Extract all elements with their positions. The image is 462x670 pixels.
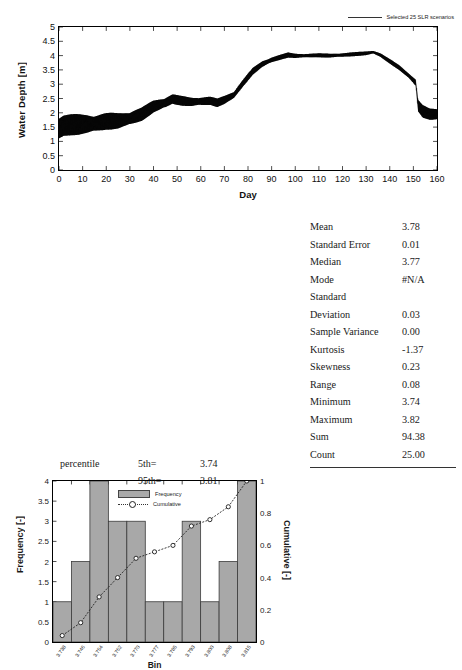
histogram-left-y-tick: 1.5	[38, 577, 49, 586]
statistic-name: Sum	[310, 428, 402, 446]
timeseries-y-tick: 2.5	[42, 94, 55, 104]
statistic-value: 0.00	[402, 323, 456, 341]
histogram-left-y-tick: 0.5	[38, 617, 49, 626]
histogram-bin-tick: 3.754	[92, 644, 104, 658]
statistic-value: 3.78	[402, 218, 456, 236]
timeseries-svg	[59, 27, 437, 170]
histogram-bin-tick: 3.777	[147, 644, 159, 658]
timeseries-x-tick: 130	[359, 174, 374, 184]
statistics-row: Skewness0.23	[310, 358, 456, 376]
statistic-value: 25.00	[402, 446, 456, 464]
histogram-bin-tick: 3.785	[166, 644, 178, 658]
statistic-name: Range	[310, 376, 402, 394]
statistics-row: Range0.08	[310, 376, 456, 394]
histogram-bin-tick: 3.800	[202, 644, 214, 658]
statistics-table: Mean3.78Standard Error0.01Median3.77Mode…	[310, 218, 456, 463]
timeseries-envelope-band	[59, 51, 437, 138]
histogram-left-y-tick: 0	[45, 638, 49, 647]
statistics-row: Count25.00	[310, 446, 456, 464]
timeseries-x-tick: 20	[101, 174, 111, 184]
statistics-row: Standard	[310, 288, 456, 306]
legend-bar-swatch-icon	[118, 490, 150, 498]
timeseries-y-tick: 1.5	[42, 122, 55, 132]
percentile-row: 95th=3.81	[60, 472, 275, 489]
histogram-right-y-tick: 0.8	[260, 509, 271, 518]
statistics-row: Deviation0.03	[310, 306, 456, 324]
statistics-row: Kurtosis-1.37	[310, 341, 456, 359]
statistic-name: Maximum	[310, 411, 402, 429]
timeseries-y-tick: 0	[50, 165, 55, 175]
histogram-left-y-tick: 4	[45, 477, 49, 486]
statistic-name: Skewness	[310, 358, 402, 376]
histogram-x-axis-label: Bin	[52, 660, 257, 670]
statistics-row: Standard Error0.01	[310, 236, 456, 254]
timeseries-x-tick: 160	[429, 174, 444, 184]
timeseries-y-tick: 4.5	[42, 36, 55, 46]
frequency-histogram-chart: Frequency [-] Cumulative [-] 00.511.522.…	[0, 232, 300, 452]
timeseries-y-tick: 0.5	[42, 151, 55, 161]
statistics-row: Mode#N/A	[310, 271, 456, 289]
statistic-name: Sample Variance	[310, 323, 402, 341]
histogram-left-y-tick: 2	[45, 557, 49, 566]
legend-entry-frequency: Frequency	[118, 490, 181, 498]
statistics-row: Maximum3.82	[310, 411, 456, 429]
statistics-row: Mean3.78	[310, 218, 456, 236]
percentile-key: 5th=	[138, 455, 200, 472]
timeseries-y-tick: 1	[50, 136, 55, 146]
timeseries-x-tick: 30	[125, 174, 135, 184]
statistic-value: -1.37	[402, 341, 456, 359]
legend-entry-cumulative: Cumulative	[118, 501, 181, 507]
timeseries-x-tick: 140	[382, 174, 397, 184]
percentile-value: 3.74	[200, 455, 275, 472]
histogram-right-y-tick: 0.4	[260, 573, 271, 582]
histogram-left-y-tick: 2.5	[38, 537, 49, 546]
water-depth-timeseries-chart: Water Depth [m] 00.511.522.533.544.55 01…	[0, 6, 462, 206]
timeseries-y-tick: 4	[50, 51, 55, 61]
timeseries-x-tick: 150	[406, 174, 421, 184]
descriptive-statistics-table: Mean3.78Standard Error0.01Median3.77Mode…	[310, 218, 456, 468]
histogram-bin-tick: 3.793	[184, 644, 196, 658]
timeseries-tick-marks	[59, 27, 437, 170]
statistic-value: 0.08	[402, 376, 456, 394]
percentile-table: percentile5th=3.7495th=3.81	[60, 455, 275, 489]
histogram-right-y-tick: 0.6	[260, 541, 271, 550]
histogram-legend: Frequency Cumulative	[118, 490, 181, 507]
statistic-name: Count	[310, 446, 402, 464]
timeseries-x-tick: 110	[312, 174, 326, 184]
percentile-block: percentile5th=3.7495th=3.81	[60, 455, 275, 489]
statistic-name: Minimum	[310, 393, 402, 411]
histogram-bin-tick: 3.808	[221, 644, 233, 658]
histogram-right-y-tick: 0.2	[260, 605, 271, 614]
statistic-name: Deviation	[310, 306, 402, 324]
percentile-label: percentile	[60, 455, 138, 472]
histogram-bin-tick: 3.746	[73, 644, 85, 658]
timeseries-y-axis-label: Water Depth [m]	[16, 40, 34, 160]
timeseries-x-tick: 100	[288, 174, 303, 184]
histogram-bin-tick: 3.815	[239, 644, 251, 658]
timeseries-y-tick: 3	[50, 79, 55, 89]
timeseries-x-tick: 70	[219, 174, 229, 184]
statistic-name: Standard Error	[310, 236, 402, 254]
statistic-value: 3.77	[402, 253, 456, 271]
histogram-left-y-tick: 3	[45, 517, 49, 526]
statistic-name: Mean	[310, 218, 402, 236]
timeseries-y-tick: 2	[50, 108, 55, 118]
statistics-bottom-rule	[310, 467, 456, 468]
timeseries-legend: Selected 25 SLR scenarios	[348, 14, 454, 20]
timeseries-x-tick: 80	[243, 174, 253, 184]
legend-label-frequency: Frequency	[155, 491, 181, 497]
percentile-key: 95th=	[138, 472, 200, 489]
histogram-bin-tick: 3.738	[55, 644, 67, 658]
timeseries-legend-label: Selected 25 SLR scenarios	[387, 14, 454, 20]
statistic-value	[402, 288, 456, 306]
timeseries-x-tick: 50	[172, 174, 182, 184]
statistic-value: #N/A	[402, 271, 456, 289]
legend-line-swatch-icon	[348, 17, 382, 18]
statistic-value: 0.01	[402, 236, 456, 254]
percentile-label	[60, 472, 138, 489]
timeseries-plot-area: 00.511.522.533.544.55 010203040506070809…	[58, 26, 438, 171]
timeseries-x-tick: 120	[335, 174, 350, 184]
legend-label-cumulative: Cumulative	[153, 501, 181, 507]
statistics-row: Median3.77	[310, 253, 456, 271]
timeseries-x-axis-label: Day	[58, 189, 438, 200]
